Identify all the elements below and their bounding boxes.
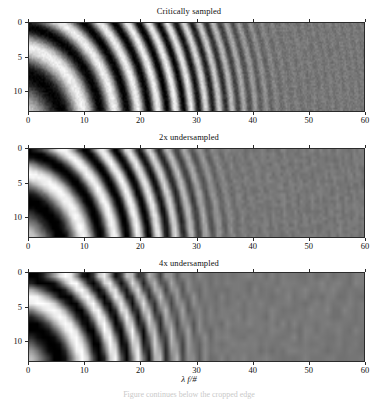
y-tick-2x-undersampled-0 xyxy=(25,148,28,149)
y-tick-label-2x-undersampled-0: 0 xyxy=(4,143,22,153)
x-tick-top-critically-sampled-30 xyxy=(197,19,198,22)
y-tick-critically-sampled-5 xyxy=(25,57,28,58)
x-tick-top-critically-sampled-10 xyxy=(84,19,85,22)
image-panel-critically-sampled xyxy=(28,22,365,112)
x-tick-top-2x-undersampled-10 xyxy=(84,145,85,148)
y-tick-label-2x-undersampled-5: 5 xyxy=(4,178,22,188)
x-tick-label-2x-undersampled-0: 0 xyxy=(26,241,30,251)
chirp-image-2x-undersampled xyxy=(29,149,364,237)
f-number-symbol: f/# xyxy=(185,374,197,384)
y-tick-2x-undersampled-5 xyxy=(25,183,28,184)
x-tick-top-2x-undersampled-0 xyxy=(28,145,29,148)
y-tick-label-4x-undersampled-5: 5 xyxy=(4,302,22,312)
x-tick-label-2x-undersampled-40: 40 xyxy=(248,241,257,251)
x-tick-top-4x-undersampled-30 xyxy=(197,269,198,272)
y-tick-label-2x-undersampled-10: 10 xyxy=(4,212,22,222)
y-tick-critically-sampled-0 xyxy=(25,22,28,23)
x-tick-label-2x-undersampled-10: 10 xyxy=(80,241,89,251)
y-tick-2x-undersampled-10 xyxy=(25,217,28,218)
x-tick-label-2x-undersampled-60: 60 xyxy=(361,241,370,251)
image-panel-2x-undersampled xyxy=(28,148,365,238)
x-tick-top-4x-undersampled-40 xyxy=(253,269,254,272)
image-panel-4x-undersampled xyxy=(28,272,365,362)
y-tick-label-critically-sampled-0: 0 xyxy=(4,17,22,27)
x-tick-top-2x-undersampled-50 xyxy=(309,145,310,148)
y-tick-4x-undersampled-0 xyxy=(25,272,28,273)
y-tick-label-4x-undersampled-0: 0 xyxy=(4,267,22,277)
x-tick-top-4x-undersampled-50 xyxy=(309,269,310,272)
y-tick-label-4x-undersampled-10: 10 xyxy=(4,336,22,346)
chirp-image-4x-undersampled xyxy=(29,273,364,361)
x-tick-top-4x-undersampled-20 xyxy=(140,269,141,272)
panel-title-critically-sampled: Critically sampled xyxy=(0,6,378,16)
x-tick-label-critically-sampled-20: 20 xyxy=(136,115,145,125)
x-tick-label-2x-undersampled-50: 50 xyxy=(305,241,314,251)
x-tick-top-critically-sampled-0 xyxy=(28,19,29,22)
x-tick-top-2x-undersampled-20 xyxy=(140,145,141,148)
x-tick-label-2x-undersampled-30: 30 xyxy=(192,241,201,251)
y-tick-critically-sampled-10 xyxy=(25,91,28,92)
x-tick-label-2x-undersampled-20: 20 xyxy=(136,241,145,251)
x-tick-label-critically-sampled-40: 40 xyxy=(248,115,257,125)
x-tick-top-2x-undersampled-40 xyxy=(253,145,254,148)
x-tick-label-critically-sampled-60: 60 xyxy=(361,115,370,125)
y-tick-label-critically-sampled-5: 5 xyxy=(4,52,22,62)
x-tick-top-critically-sampled-60 xyxy=(365,19,366,22)
cropped-caption-strip: Figure continues below the cropped edge xyxy=(0,390,378,402)
x-tick-top-critically-sampled-50 xyxy=(309,19,310,22)
x-axis-label: λ f/# xyxy=(0,374,378,384)
chirp-image-critically-sampled xyxy=(29,23,364,111)
x-tick-label-critically-sampled-50: 50 xyxy=(305,115,314,125)
y-tick-4x-undersampled-10 xyxy=(25,341,28,342)
x-tick-label-critically-sampled-0: 0 xyxy=(26,115,30,125)
x-tick-label-critically-sampled-30: 30 xyxy=(192,115,201,125)
y-tick-4x-undersampled-5 xyxy=(25,307,28,308)
y-tick-label-critically-sampled-10: 10 xyxy=(4,86,22,96)
x-tick-top-critically-sampled-40 xyxy=(253,19,254,22)
x-tick-top-4x-undersampled-0 xyxy=(28,269,29,272)
x-tick-top-4x-undersampled-60 xyxy=(365,269,366,272)
x-tick-top-4x-undersampled-10 xyxy=(84,269,85,272)
x-tick-top-2x-undersampled-60 xyxy=(365,145,366,148)
x-tick-label-critically-sampled-10: 10 xyxy=(80,115,89,125)
x-tick-top-2x-undersampled-30 xyxy=(197,145,198,148)
x-tick-top-critically-sampled-20 xyxy=(140,19,141,22)
panel-title-4x-undersampled: 4x undersampled xyxy=(0,258,378,268)
panel-title-2x-undersampled: 2x undersampled xyxy=(0,132,378,142)
